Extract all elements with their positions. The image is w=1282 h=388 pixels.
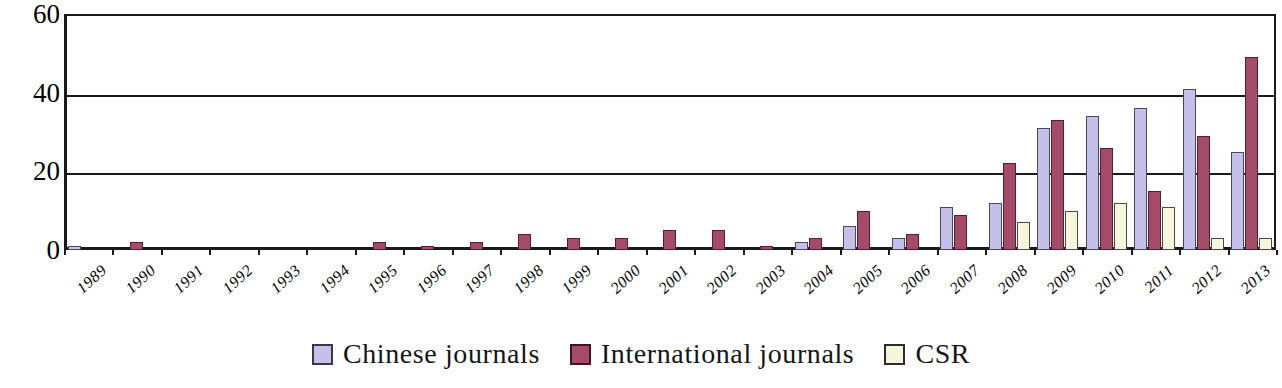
bar <box>130 242 143 250</box>
x-axis-label-2003: 2003 <box>753 262 789 297</box>
bar <box>1086 116 1099 250</box>
bar-group <box>549 14 597 250</box>
bar <box>892 238 905 250</box>
bar-chart: 6040200 19891990199119921993199419951996… <box>0 0 1282 388</box>
bar-group <box>888 14 936 250</box>
bar <box>1037 128 1050 250</box>
bar-group <box>1082 14 1130 250</box>
bar-group <box>937 14 985 250</box>
bar-group <box>597 14 645 250</box>
bar <box>940 207 953 250</box>
x-axis-tick <box>452 250 454 255</box>
x-axis-label-2006: 2006 <box>898 262 934 297</box>
bar-group <box>452 14 500 250</box>
bar <box>663 230 676 250</box>
x-axis-label-2010: 2010 <box>1092 262 1128 297</box>
bar-group <box>1228 14 1276 250</box>
bar <box>518 234 531 250</box>
bar-group <box>355 14 403 250</box>
x-axis-label-1995: 1995 <box>365 262 401 297</box>
bar <box>373 242 386 250</box>
x-axis-label-2008: 2008 <box>995 262 1031 297</box>
x-axis-tick <box>1179 250 1181 255</box>
x-axis-tick <box>1276 250 1278 255</box>
x-axis-label-2004: 2004 <box>801 262 837 297</box>
bar-group <box>161 14 209 250</box>
bar-group <box>840 14 888 250</box>
y-axis-label-40: 40 <box>8 79 60 106</box>
legend-label: Chinese journals <box>343 340 540 368</box>
x-axis-tick <box>985 250 987 255</box>
x-axis-tick <box>258 250 260 255</box>
x-axis-label-2013: 2013 <box>1237 262 1273 297</box>
x-axis-tick <box>306 250 308 255</box>
bar-series-layer <box>64 14 1276 250</box>
x-axis-label-1993: 1993 <box>268 262 304 297</box>
x-axis-label-1997: 1997 <box>462 262 498 297</box>
x-axis-tick <box>694 250 696 255</box>
bar <box>1231 152 1244 250</box>
bar <box>1183 89 1196 250</box>
x-axis-tick <box>791 250 793 255</box>
bar-group <box>791 14 839 250</box>
x-axis-tick <box>1228 250 1230 255</box>
legend-label: CSR <box>915 340 970 368</box>
bar <box>843 226 856 250</box>
legend-swatch-icon <box>570 344 591 365</box>
legend-item-csr[interactable]: CSR <box>884 340 970 368</box>
legend-item-chinese-journals[interactable]: Chinese journals <box>312 340 540 368</box>
bar <box>1065 211 1078 250</box>
bar <box>906 234 919 250</box>
x-axis-tick <box>112 250 114 255</box>
x-axis-label-1999: 1999 <box>559 262 595 297</box>
legend-item-international-journals[interactable]: International journals <box>570 340 854 368</box>
bar <box>615 238 628 250</box>
x-axis-label-1994: 1994 <box>316 262 352 297</box>
bar <box>68 246 81 250</box>
x-axis-label-1989: 1989 <box>74 262 110 297</box>
bar <box>1017 222 1030 250</box>
bar <box>1114 203 1127 250</box>
bar-group <box>500 14 548 250</box>
bar-group <box>209 14 257 250</box>
bar <box>795 242 808 250</box>
x-axis-label-2012: 2012 <box>1189 262 1225 297</box>
bar <box>989 203 1002 250</box>
x-axis-tick <box>597 250 599 255</box>
x-axis-label-1991: 1991 <box>171 262 207 297</box>
x-axis-label-2002: 2002 <box>704 262 740 297</box>
bar-group <box>403 14 451 250</box>
bar <box>1100 148 1113 250</box>
bar <box>1134 108 1147 250</box>
bar <box>421 246 434 250</box>
x-axis-tick <box>209 250 211 255</box>
bar <box>1197 136 1210 250</box>
x-axis-tick <box>840 250 842 255</box>
x-axis-label-2009: 2009 <box>1044 262 1080 297</box>
bar-group <box>985 14 1033 250</box>
legend-swatch-icon <box>884 344 905 365</box>
bar <box>809 238 822 250</box>
x-axis-tick <box>161 250 163 255</box>
bar <box>1162 207 1175 250</box>
bar <box>1051 120 1064 250</box>
x-axis-tick <box>888 250 890 255</box>
x-axis-tick <box>549 250 551 255</box>
x-axis-label-2011: 2011 <box>1141 262 1176 296</box>
x-axis-tick <box>1131 250 1133 255</box>
x-axis-label-1998: 1998 <box>510 262 546 297</box>
x-axis-tick <box>500 250 502 255</box>
chart-legend: Chinese journalsInternational journalsCS… <box>0 340 1282 368</box>
bar <box>857 211 870 250</box>
x-axis-label-2005: 2005 <box>850 262 886 297</box>
x-axis-tick <box>355 250 357 255</box>
bar-group <box>1179 14 1227 250</box>
bar-group <box>743 14 791 250</box>
legend-swatch-icon <box>312 344 333 365</box>
x-axis-label-1990: 1990 <box>122 262 158 297</box>
bar <box>1259 238 1272 250</box>
bar <box>470 242 483 250</box>
x-axis-tick <box>64 250 66 255</box>
y-axis-label-60: 60 <box>8 1 60 28</box>
bar <box>954 215 967 250</box>
